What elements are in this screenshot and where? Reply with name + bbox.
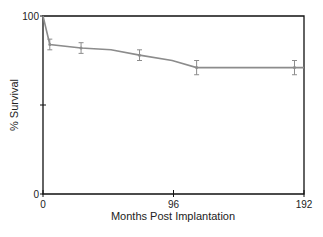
data-point (80, 47, 83, 50)
x-axis-label: Months Post Implantation (111, 210, 235, 222)
y-tick-label: 0 (33, 189, 39, 200)
y-tick-label: 100 (22, 11, 39, 22)
x-tick-label: 0 (40, 199, 46, 210)
data-point (48, 43, 51, 46)
plot-area: 0100096192 (22, 11, 312, 210)
data-point (293, 66, 296, 69)
data-point (195, 66, 198, 69)
survival-chart: 0100096192 Months Post Implantation % Su… (0, 0, 323, 237)
x-tick-label: 96 (168, 199, 180, 210)
x-tick-label: 192 (296, 199, 313, 210)
data-point (138, 54, 141, 57)
survival-line (43, 16, 304, 68)
y-axis-label: % Survival (8, 79, 20, 131)
